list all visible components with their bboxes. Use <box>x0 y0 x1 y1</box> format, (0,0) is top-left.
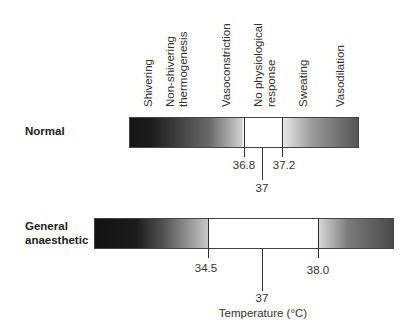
label-thermogenesis: thermogenesis <box>177 32 189 107</box>
anaesthetic-center-value: 37 <box>256 292 269 304</box>
normal-upper-threshold-line <box>282 117 283 157</box>
label-non-shivering: Non-shivering <box>164 36 176 107</box>
label-vasoconstriction: Vasoconstriction <box>220 23 232 107</box>
label-no-physiological: No physiological <box>252 23 264 107</box>
anaesthetic-lower-threshold-line <box>208 218 209 258</box>
normal-lower-value: 36.8 <box>233 159 255 171</box>
row-label-anaesthetic: anaesthetic <box>25 233 88 247</box>
normal-lower-threshold-line <box>244 117 245 157</box>
anaesthetic-upper-threshold-line <box>318 218 319 258</box>
normal-center-line <box>262 147 263 180</box>
anaesthetic-center-line <box>262 248 263 291</box>
label-shivering: Shivering <box>142 59 154 107</box>
anaesthetic-upper-value: 38.0 <box>307 264 329 276</box>
row-label-normal: Normal <box>25 124 65 138</box>
normal-upper-value: 37.2 <box>273 159 295 171</box>
axis-title: Temperature (°C) <box>219 307 307 319</box>
anaesthetic-bar <box>94 218 394 249</box>
label-vasodilation: Vasodilation <box>334 45 346 107</box>
row-label-general: General <box>25 219 68 233</box>
anaesthetic-lower-value: 34.5 <box>195 262 217 274</box>
normal-center-value: 37 <box>256 182 269 194</box>
label-sweating: Sweating <box>297 60 309 107</box>
label-response: response <box>265 60 277 107</box>
